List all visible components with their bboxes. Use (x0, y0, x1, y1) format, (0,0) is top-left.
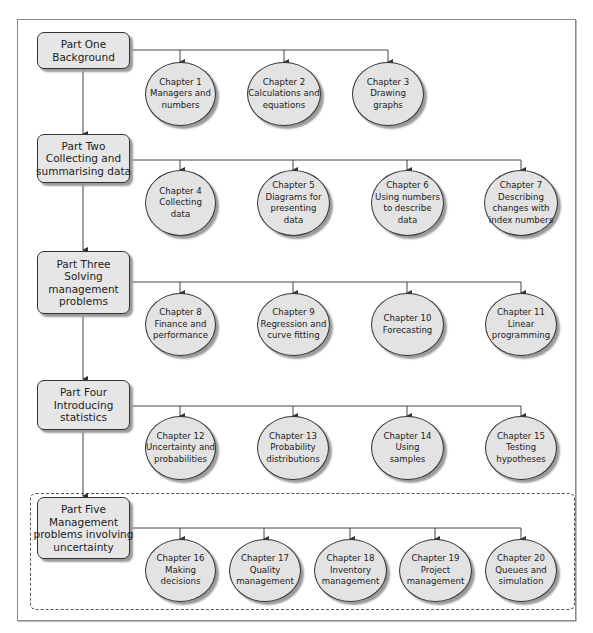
part-label: Management (49, 516, 118, 529)
chapter-label: decisions (161, 576, 201, 588)
chapter-label: programming (492, 330, 550, 342)
chapter-label: Linear (508, 319, 535, 331)
part-label: Part Two (62, 140, 106, 153)
part-label: Part One (61, 38, 106, 51)
chapter-label: Queues and (495, 565, 547, 577)
chapter-9-node: Chapter 9 Regression and curve fitting (257, 293, 330, 356)
part-two-box: Part Two Collecting and summarising data (37, 134, 130, 183)
part-label: summarising data (36, 165, 131, 178)
chapter-label: Chapter 6 (386, 180, 429, 192)
chapter-label: Chapter 7 (500, 180, 543, 192)
chapter-label: Project (421, 565, 450, 577)
chapter-1-node: Chapter 1 Managers and numbers (145, 62, 216, 126)
chapter-label: Chapter 1 (159, 77, 202, 89)
chapter-label: data (284, 215, 303, 227)
chapter-label: probabilities (154, 454, 207, 466)
chapter-label: Chapter 18 (326, 553, 374, 565)
chapter-17-node: Chapter 17 Quality management (229, 539, 301, 602)
chapter-label: Chapter 14 (383, 431, 431, 443)
chapter-14-node: Chapter 14 Using samples (371, 416, 444, 480)
part-label: statistics (60, 411, 107, 424)
part-label: uncertainty (53, 541, 113, 554)
chapter-label: Chapter 20 (497, 553, 545, 565)
chapter-label: data (171, 209, 190, 221)
chapter-label: Uncertainty and (146, 442, 215, 454)
part-label: Solving (64, 270, 102, 283)
chapter-label: distributions (266, 454, 319, 466)
chapter-label: management (322, 576, 380, 588)
chapter-label: Chapter 13 (269, 431, 317, 443)
chapter-label: Probability (270, 442, 315, 454)
chapter-label: Chapter 19 (411, 553, 459, 565)
chapter-7-node: Chapter 7 Describing changes with index … (484, 170, 558, 236)
chapter-label: Regression and (261, 319, 327, 331)
chapter-label: Chapter 10 (383, 313, 431, 325)
chapter-5-node: Chapter 5 Diagrams for presenting data (257, 170, 330, 236)
part-label: Part Four (60, 386, 107, 399)
chapter-label: graphs (373, 100, 403, 112)
part-label: Collecting and (46, 152, 121, 165)
chapter-6-node: Chapter 6 Using numbers to describe data (371, 170, 444, 236)
chapter-2-node: Chapter 2 Calculations and equations (247, 62, 321, 126)
chapter-label: simulation (499, 576, 544, 588)
chapter-label: Chapter 16 (156, 553, 204, 565)
chapter-label: equations (263, 100, 305, 112)
chapter-19-node: Chapter 19 Project management (399, 539, 472, 602)
chapter-label: Chapter 3 (367, 77, 410, 89)
chapter-label: Diagrams for (266, 192, 322, 204)
part-three-box: Part Three Solving management problems (37, 251, 130, 314)
chapter-label: data (398, 215, 417, 227)
chapter-label: Chapter 15 (497, 431, 545, 443)
chapter-label: changes with (492, 203, 549, 215)
chapter-label: Chapter 9 (272, 307, 315, 319)
chapter-label: Chapter 4 (159, 186, 202, 198)
chapter-label: management (407, 576, 465, 588)
chapter-label: Collecting (159, 197, 202, 209)
chapter-4-node: Chapter 4 Collecting data (145, 170, 216, 236)
part-label: problems involving (34, 528, 134, 541)
chapter-label: hypotheses (496, 454, 546, 466)
part-label: Background (52, 51, 115, 64)
chapter-label: Managers and (150, 88, 211, 100)
chapter-label: Drawing (370, 88, 406, 100)
chapter-label: Making (165, 565, 196, 577)
chapter-label: management (236, 576, 294, 588)
chapter-13-node: Chapter 13 Probability distributions (257, 416, 329, 480)
part-label: management (48, 283, 118, 296)
part-label: Part Three (56, 258, 110, 271)
chapter-10-node: Chapter 10 Forecasting (371, 293, 444, 356)
chapter-label: numbers (161, 100, 199, 112)
chapter-label: Finance and (155, 319, 207, 331)
chapter-label: Chapter 17 (241, 553, 289, 565)
chapter-label: Chapter 8 (159, 307, 202, 319)
chapter-label: Describing (498, 192, 544, 204)
chapter-label: Calculations and (248, 88, 319, 100)
part-label: problems (59, 295, 108, 308)
chapter-label: Chapter 12 (156, 431, 204, 443)
chapter-20-node: Chapter 20 Queues and simulation (485, 539, 557, 602)
chapter-label: index numbers (489, 215, 553, 227)
chapter-label: performance (153, 330, 208, 342)
chapter-18-node: Chapter 18 Inventory management (314, 539, 387, 602)
chapter-label: Inventory (330, 565, 371, 577)
chapter-label: Using numbers (375, 192, 440, 204)
chapter-12-node: Chapter 12 Uncertainty and probabilities (145, 416, 216, 480)
chapter-label: Chapter 2 (263, 77, 306, 89)
chapter-8-node: Chapter 8 Finance and performance (145, 293, 216, 356)
chapter-3-node: Chapter 3 Drawing graphs (352, 62, 424, 126)
part-label: Introducing (54, 399, 114, 412)
chapter-11-node: Chapter 11 Linear programming (485, 293, 557, 356)
part-one-box: Part One Background (37, 32, 130, 69)
chapter-label: curve fitting (267, 330, 319, 342)
part-five-box: Part Five Management problems involving … (37, 497, 130, 559)
chapter-label: Chapter 5 (272, 180, 315, 192)
chapter-16-node: Chapter 16 Making decisions (145, 539, 216, 602)
chapter-label: Forecasting (383, 325, 433, 337)
chapter-15-node: Chapter 15 Testing hypotheses (485, 416, 557, 480)
chapter-label: to describe (384, 203, 432, 215)
chapter-label: presenting (271, 203, 317, 215)
chapter-label: Using (395, 442, 419, 454)
part-four-box: Part Four Introducing statistics (37, 380, 130, 430)
chapter-label: samples (390, 454, 426, 466)
chapter-label: Quality (250, 565, 281, 577)
